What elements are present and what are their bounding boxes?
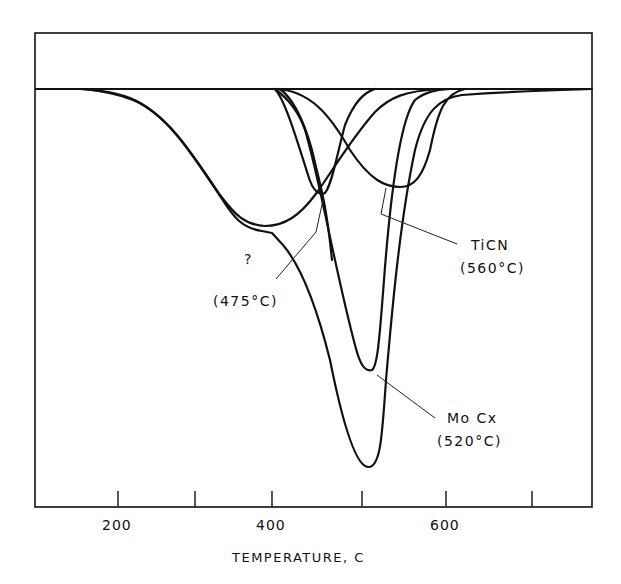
x-axis-label: TEMPERATURE, C: [231, 550, 365, 565]
curve-broad-a: [80, 89, 440, 226]
curve-q-peak: [275, 89, 375, 194]
chart: ? (475°C) TiCN (560°C) Mo Cx (520°C) 200…: [0, 0, 621, 584]
label-mocx-temp: (520°C): [437, 433, 502, 449]
curve-ticn: [275, 89, 465, 187]
label-ticn-temp: (560°C): [460, 260, 525, 276]
label-ticn: TiCN: [470, 237, 509, 253]
curve-mocx-shallow: [275, 89, 450, 370]
x-ticks: [118, 491, 532, 507]
tick-label-600: 600: [430, 517, 460, 533]
tick-label-200: 200: [102, 517, 132, 533]
label-q: ?: [244, 251, 253, 267]
label-q-temp: (475°C): [213, 293, 278, 309]
tick-label-400: 400: [256, 517, 286, 533]
label-mocx: Mo Cx: [447, 410, 498, 426]
